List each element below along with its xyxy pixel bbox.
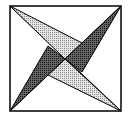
pinwheel-diagram	[0, 0, 130, 118]
